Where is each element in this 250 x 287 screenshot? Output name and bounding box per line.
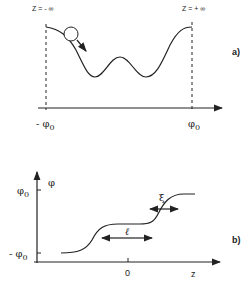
x-axis-label-z: z [191, 270, 196, 279]
l-separation-label: ℓ [125, 227, 129, 237]
label-minus-phi0-sub: 0 [50, 123, 55, 132]
label-phi0: φ0 [188, 119, 200, 129]
panel-b-tag: b) [232, 235, 241, 245]
panel-a [38, 22, 222, 110]
label-minus-phi0-text: - φ [36, 118, 50, 129]
label-z-minus-infinity: Z = - ∞ [32, 5, 54, 12]
panel-a-tag: a) [232, 47, 240, 57]
label-phi0-text: φ [188, 118, 195, 129]
y-tick-phi0-sub: 0 [24, 190, 29, 199]
y-tick-minus-phi0-sub: 0 [23, 253, 28, 262]
kink-profile-curve [61, 194, 195, 253]
xi-width-label: ξ [159, 193, 165, 203]
y-tick-label-minus-phi0: - φ0 [9, 249, 28, 259]
rolling-ball-icon [64, 27, 78, 41]
y-tick-phi0-text: φ [17, 185, 24, 196]
x-tick-label-zero: 0 [125, 269, 130, 278]
y-tick-label-phi0: φ0 [17, 186, 29, 196]
y-tick-minus-phi0-text: - φ [9, 248, 23, 259]
ball-motion-arrow [77, 40, 86, 51]
y-axis-label-phi: φ [48, 178, 55, 188]
label-minus-phi0: - φ0 [36, 119, 55, 129]
diagram-canvas [0, 0, 250, 287]
panel-b [34, 172, 220, 263]
label-z-plus-infinity: Z = + ∞ [182, 5, 205, 12]
label-phi0-sub: 0 [195, 123, 200, 132]
